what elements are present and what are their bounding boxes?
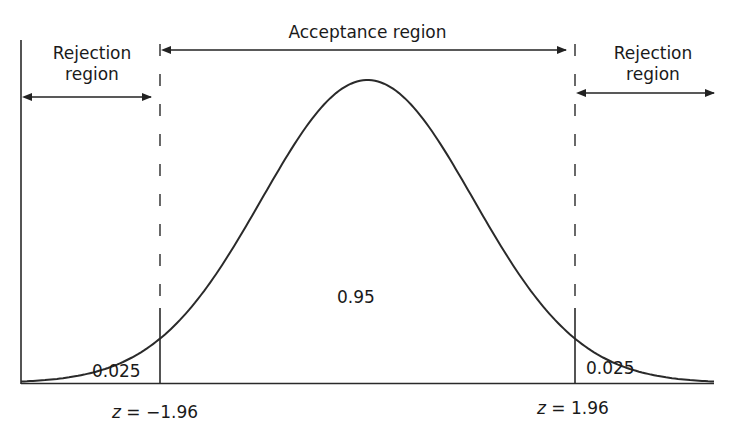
right-rejection-label: Rejection region bbox=[578, 43, 728, 85]
left-tail-area-label: 0.025 bbox=[92, 361, 141, 382]
right-z-variable: z bbox=[537, 398, 546, 418]
left-rejection-label-line1: Rejection bbox=[22, 43, 162, 64]
left-z-label: z = −1.96 bbox=[112, 402, 198, 423]
right-rejection-label-line1: Rejection bbox=[578, 43, 728, 64]
left-rejection-label: Rejection region bbox=[22, 43, 162, 85]
left-rejection-label-line2: region bbox=[22, 64, 162, 85]
center-area-label: 0.95 bbox=[337, 287, 375, 308]
right-tail-area-label: 0.025 bbox=[586, 358, 635, 379]
right-z-label: z = 1.96 bbox=[537, 398, 609, 419]
normal-curve bbox=[21, 80, 714, 382]
left-z-value: = −1.96 bbox=[121, 402, 198, 422]
acceptance-region-label: Acceptance region bbox=[160, 22, 575, 43]
left-z-variable: z bbox=[112, 402, 121, 422]
right-z-value: = 1.96 bbox=[546, 398, 609, 418]
right-rejection-label-line2: region bbox=[578, 64, 728, 85]
